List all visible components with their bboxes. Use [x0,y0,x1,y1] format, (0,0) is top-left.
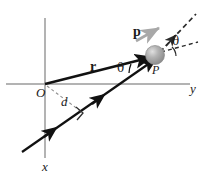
origin-label: O [36,86,45,99]
angular-momentum-particle-diagram: O y x r p P d θ θ [0,0,207,178]
trajectory-direction-marker-upper [92,98,100,104]
position-vector-r [45,57,152,84]
moment-arm-label: d [61,95,68,108]
angle-reference-dashed-line [161,42,198,52]
position-vector-label: r [90,60,96,74]
particle-sphere [146,46,165,65]
x-axis-label: x [42,160,48,173]
y-axis-label: y [190,82,196,95]
momentum-vector-label: p [133,25,141,39]
angle-theta-at-particle-label: θ [117,62,124,74]
angle-theta-at-asymptote-label: θ [172,35,179,47]
angle-arc-at-particle [129,64,131,73]
particle-circle [146,46,165,65]
particle-label: P [152,64,159,76]
diagram-canvas [0,0,207,178]
axis-lines [6,18,190,158]
